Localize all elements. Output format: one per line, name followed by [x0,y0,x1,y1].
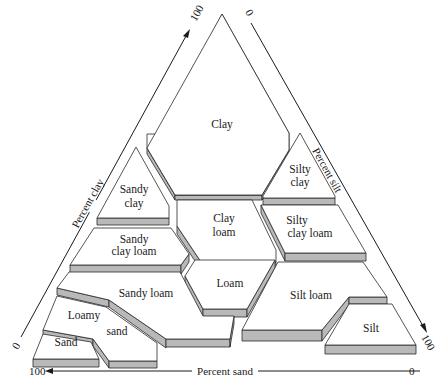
label-sandy-loam: Sandy loam [119,287,174,300]
clay-axis-max-label: 100 [187,2,206,23]
clay-axis-min-label: 0 [9,340,22,351]
label-loamy-sand-1: Loamy [68,309,101,322]
sand-axis-label: Percent sand [197,365,253,377]
label-sandy-clay-2: clay [124,197,143,210]
sand-axis-min-label: 0 [409,365,415,377]
label-clay-loam-2: loam [213,226,236,238]
label-clay-loam-1: Clay [213,212,235,225]
soil-texture-triangle: 100 0 Percent clay 0 100 Percent silt 10… [0,0,444,388]
class-sandy-clay-loam: Sandy clay loam [70,228,189,274]
label-sandy-clay-loam-2: clay loam [111,245,156,258]
label-sandy-clay-1: Sandy [120,183,149,196]
label-silty-clay-1: Silty [289,163,311,176]
label-silt-loam: Silt loam [290,289,332,301]
label-clay: Clay [211,118,233,131]
label-sand: Sand [55,336,78,348]
class-clay: Clay [147,14,289,200]
label-loamy-sand-2: sand [106,325,127,337]
label-silt: Silt [363,322,380,334]
class-silty-clay-loam: Silty clay loam [261,205,366,261]
label-silty-clay-loam-2: clay loam [287,227,332,240]
label-loam: Loam [217,277,244,289]
silt-axis-max-label: 100 [419,332,438,353]
silt-axis-min-label: 0 [243,7,256,18]
label-silty-clay-2: clay [290,176,309,189]
label-silty-clay-loam-1: Silty [286,214,308,227]
